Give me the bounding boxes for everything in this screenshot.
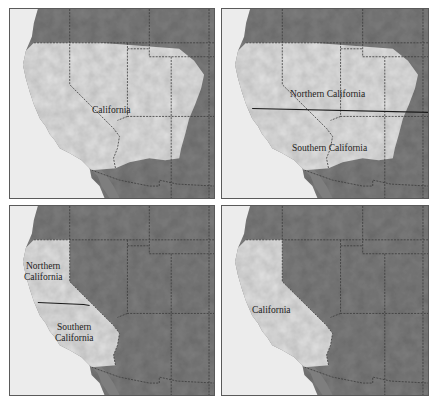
region-label-southern-california: Southern California bbox=[292, 143, 367, 153]
region-label-northern: Northern bbox=[26, 261, 60, 271]
map-bottom-left bbox=[10, 206, 214, 395]
map-panel-top-right: Northern California Southern California bbox=[221, 8, 429, 199]
region-label-california: California bbox=[252, 305, 291, 315]
map-panel-bottom-left: Northern California Southern California bbox=[9, 205, 215, 396]
region-label-southern: Southern bbox=[57, 322, 91, 332]
region-label-california: California bbox=[92, 105, 131, 115]
map-panel-bottom-right: California bbox=[221, 205, 429, 396]
region-label-california-north: California bbox=[24, 272, 63, 282]
map-panel-top-left: California bbox=[9, 8, 215, 199]
map-bottom-right bbox=[222, 206, 428, 395]
map-top-right bbox=[222, 9, 428, 198]
map-top-left bbox=[10, 9, 214, 198]
region-label-northern-california: Northern California bbox=[290, 89, 365, 99]
region-label-california-south: California bbox=[55, 333, 94, 343]
